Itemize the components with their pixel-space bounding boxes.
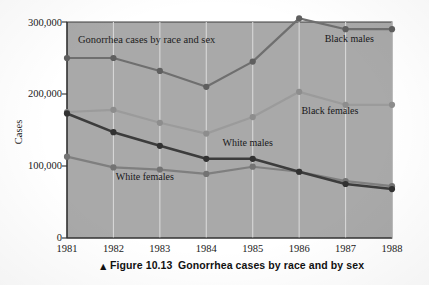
- data-point-black-males-1982: [110, 55, 116, 61]
- data-point-white-females-1985: [250, 164, 256, 170]
- series-label-white-males: White males: [223, 137, 273, 148]
- y-axis-title: Cases: [13, 120, 24, 145]
- x-tick-label-1981: 1981: [57, 243, 78, 254]
- y-tick-label-0: 0: [57, 232, 62, 243]
- data-point-white-males-1981: [64, 110, 70, 116]
- x-tick-label-1982: 1982: [103, 243, 124, 254]
- data-point-white-males-1987: [342, 181, 348, 187]
- data-point-black-females-1983: [157, 120, 163, 126]
- caption-number: Figure 10.13: [110, 259, 173, 271]
- data-point-black-females-1985: [250, 114, 256, 120]
- data-point-black-males-1985: [250, 59, 256, 65]
- data-point-black-females-1986: [296, 89, 302, 95]
- data-point-black-males-1983: [157, 68, 163, 74]
- data-point-white-males-1988: [389, 186, 395, 192]
- data-point-white-females-1982: [110, 164, 116, 170]
- x-tick-label-1985: 1985: [242, 243, 263, 254]
- data-point-black-males-1988: [389, 26, 395, 32]
- data-point-white-females-1981: [64, 154, 70, 160]
- gonorrhea-cases-line-chart: 0 100,000 200,000 300,000 Cases 19811982…: [0, 0, 429, 285]
- data-point-black-females-1984: [203, 131, 209, 137]
- data-point-white-males-1985: [250, 156, 256, 162]
- data-point-white-males-1982: [110, 129, 116, 135]
- x-tick-label-1988: 1988: [382, 243, 403, 254]
- plot-area-background: [67, 22, 392, 238]
- series-label-black-males: Black males: [325, 33, 374, 44]
- series-label-black-females: Black females: [301, 105, 358, 116]
- data-point-white-males-1986: [296, 169, 302, 175]
- data-point-black-females-1988: [389, 102, 395, 108]
- y-tick-label-200000: 200,000: [28, 88, 62, 99]
- data-point-black-females-1982: [110, 107, 116, 113]
- y-tick-label-100000: 100,000: [28, 160, 62, 171]
- data-point-white-males-1984: [203, 156, 209, 162]
- figure-container: 0 100,000 200,000 300,000 Cases 19811982…: [0, 0, 429, 285]
- x-axis-tick-labels: 19811982198319841985198619871988: [57, 243, 403, 254]
- data-point-black-males-1984: [203, 84, 209, 90]
- y-axis-ticks: [62, 22, 67, 238]
- x-tick-label-1983: 1983: [149, 243, 170, 254]
- caption-text: Gonorrhea cases by race and by sex: [178, 259, 364, 271]
- x-tick-label-1986: 1986: [289, 243, 310, 254]
- chart-inner-title: Gonorrhea cases by race and sex: [78, 34, 216, 45]
- data-point-white-males-1983: [157, 143, 163, 149]
- x-tick-label-1984: 1984: [196, 243, 218, 254]
- x-tick-label-1987: 1987: [335, 243, 356, 254]
- data-point-white-females-1984: [203, 171, 209, 177]
- data-point-black-males-1986: [296, 15, 302, 21]
- data-point-black-males-1981: [64, 55, 70, 61]
- data-point-black-males-1987: [342, 26, 348, 32]
- series-label-white-females: White females: [116, 171, 174, 182]
- caption-marker: ▲: [98, 260, 109, 272]
- y-tick-label-300000: 300,000: [28, 17, 62, 28]
